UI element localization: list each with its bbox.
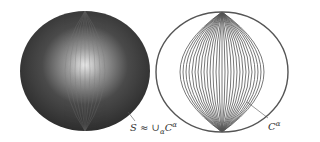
shaded-sphere xyxy=(20,11,150,131)
label-union: S ≈ ∪ xyxy=(130,122,160,133)
wireframe-sphere xyxy=(156,12,288,132)
right-sphere-label: Cα xyxy=(268,120,280,132)
left-sphere-label: S ≈ ∪αCα xyxy=(130,121,177,136)
label-c: C xyxy=(268,121,276,132)
label-sup: α xyxy=(276,120,281,128)
label-sup: α xyxy=(172,121,177,129)
